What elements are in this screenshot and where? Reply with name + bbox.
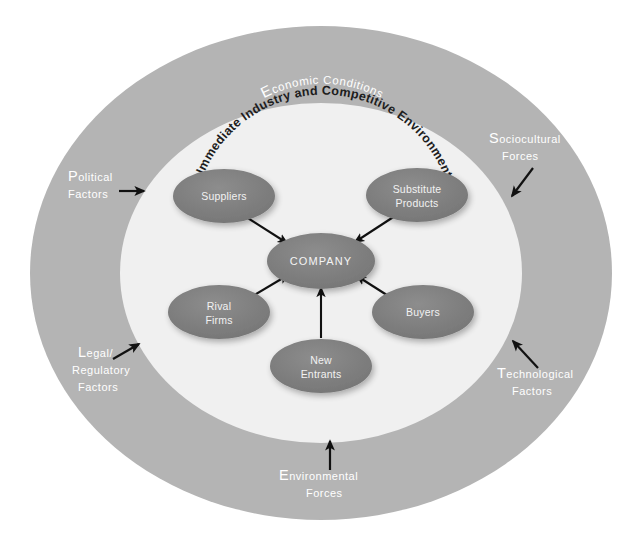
node-suppliers-label: Suppliers — [201, 190, 247, 202]
node-company-label: COMPANY — [290, 255, 353, 267]
node-rival-firms-label-line2: Firms — [205, 314, 232, 326]
political-factors-label-line1: Political — [68, 168, 113, 184]
legal-regulatory-factors-label-line3: Factors — [78, 381, 118, 393]
environmental-forces-label-line1: Environmental — [279, 467, 358, 483]
legal-regulatory-factors-label-line1: Legal/ — [78, 344, 113, 360]
node-new-entrants-label-line1: New — [310, 354, 332, 366]
diagram-canvas: MACRO-ENVIRONMENT Economic Conditions Im… — [0, 0, 641, 537]
sociocultural-forces-label-line2: Forces — [502, 150, 539, 162]
node-rival-firms-label-line1: Rival — [207, 300, 231, 312]
environmental-forces-label-line2: Forces — [306, 487, 343, 499]
node-substitute-products-label-line1: Substitute — [393, 183, 442, 195]
legal-regulatory-factors-label-line2: Regulatory — [72, 364, 130, 376]
node-buyers-label: Buyers — [406, 306, 440, 318]
node-new-entrants[interactable] — [270, 339, 372, 393]
node-new-entrants-label-line2: Entrants — [301, 368, 342, 380]
technological-factors-label-line1: Technological — [497, 365, 574, 381]
node-rival-firms[interactable] — [168, 285, 270, 339]
sociocultural-forces-label-line1: Sociocultural — [489, 130, 561, 146]
technological-factors-label-line2: Factors — [512, 385, 552, 397]
node-substitute-products[interactable] — [366, 168, 468, 222]
political-factors-label-line2: Factors — [68, 188, 108, 200]
node-substitute-products-label-line2: Products — [395, 197, 438, 209]
